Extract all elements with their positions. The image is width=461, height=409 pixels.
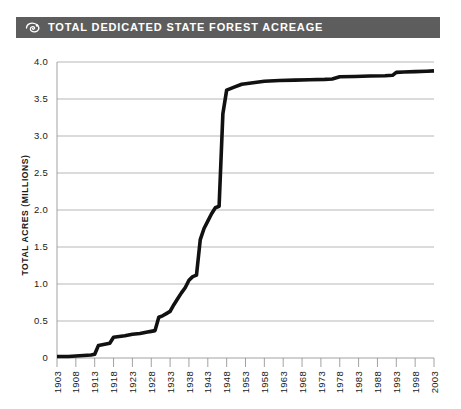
x-axis-tick-label: 1953 xyxy=(240,371,251,393)
y-axis-tick-label: 1.0 xyxy=(34,278,48,289)
data-series-line xyxy=(57,71,434,357)
x-axis-tick-label: 1973 xyxy=(316,371,327,393)
x-axis-tick-label: 1908 xyxy=(70,371,81,393)
x-axis-tick-labels: 1903190819131918192319281933193819431948… xyxy=(52,371,440,393)
y-axis-tick-label: 2.0 xyxy=(34,204,48,215)
y-axis-tick-labels: 00.51.01.52.02.53.03.54.0 xyxy=(34,56,48,363)
x-axis-tick-label: 1978 xyxy=(334,371,345,393)
y-axis-tick-label: 4.0 xyxy=(34,56,48,67)
x-axis-tick-label: 1923 xyxy=(127,371,138,393)
x-axis-tick-label: 1928 xyxy=(146,371,157,393)
x-axis-tick-label: 1983 xyxy=(353,371,364,393)
x-axis-tick-label: 2003 xyxy=(429,371,440,393)
x-axis-tick-label: 1988 xyxy=(372,371,383,393)
x-axis-tick-label: 1938 xyxy=(184,371,195,393)
y-axis-title: TOTAL ACRES (MILLIONS) xyxy=(20,154,30,275)
x-axis-tick-label: 1958 xyxy=(259,371,270,393)
y-axis-tick-label: 3.5 xyxy=(34,93,48,104)
x-axis-tick-label: 1918 xyxy=(108,371,119,393)
chart-container: 00.51.01.52.02.53.03.54.0 19031908191319… xyxy=(0,0,461,409)
y-axis-tick-label: 1.5 xyxy=(34,241,48,252)
y-axis-tick-label: 0.5 xyxy=(34,315,48,326)
x-axis-tick-label: 1963 xyxy=(278,371,289,393)
line-chart: 00.51.01.52.02.53.03.54.0 19031908191319… xyxy=(0,0,461,409)
y-axis-tick-label: 3.0 xyxy=(34,130,48,141)
x-axis-tick-label: 1948 xyxy=(221,371,232,393)
x-axis-tick-label: 1943 xyxy=(202,371,213,393)
x-axis-tick-label: 1933 xyxy=(165,371,176,393)
x-axis-tick-label: 1913 xyxy=(89,371,100,393)
x-axis-tick-label: 1993 xyxy=(391,371,402,393)
y-axis-tick-label: 2.5 xyxy=(34,167,48,178)
x-axis-tick-label: 1998 xyxy=(410,371,421,393)
gridlines xyxy=(57,62,434,321)
x-axis-tick-label: 1903 xyxy=(52,371,63,393)
y-axis-tick-label: 0 xyxy=(42,352,48,363)
x-axis-tick-label: 1968 xyxy=(297,371,308,393)
